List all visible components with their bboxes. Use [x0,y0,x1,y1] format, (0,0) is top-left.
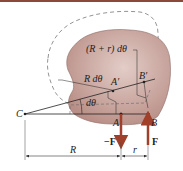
label-b: B [151,117,157,128]
label-force-neg: −F [104,136,116,147]
label-angle: dθ [86,97,96,108]
label-dim-R: R [69,144,76,155]
label-dim-r: r [133,144,137,155]
label-force-pos: F [152,136,158,147]
label-arc-outer: (R + r) dθ [86,43,127,55]
label-b-prime: B′ [139,70,148,81]
rigid-body-rotation-diagram: C A B A′ B′ (R + r) dθ R dθ dθ −F F R r [0,0,183,171]
label-a: A [112,117,120,128]
label-a-prime: A′ [110,76,120,87]
label-c: C [16,108,23,119]
label-arc-inner: R dθ [83,73,103,84]
